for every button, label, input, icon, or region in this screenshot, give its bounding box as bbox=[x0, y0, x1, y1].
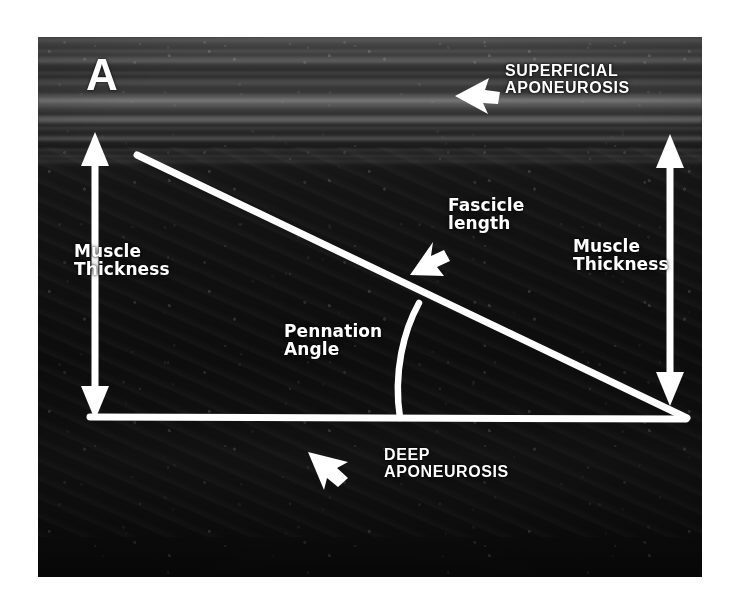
label-muscle-thickness-left: Muscle Thickness bbox=[74, 242, 170, 279]
ultrasound-image bbox=[38, 37, 702, 577]
label-muscle-thickness-right: Muscle Thickness bbox=[573, 237, 669, 274]
panel-letter-a: A bbox=[86, 53, 118, 97]
label-pennation-angle: Pennation Angle bbox=[284, 322, 382, 359]
label-fascicle-length: Fascicle length bbox=[448, 196, 524, 233]
label-superficial-aponeurosis: SUPERFICIAL APONEUROSIS bbox=[505, 62, 630, 97]
image-vignette bbox=[38, 37, 702, 577]
label-deep-aponeurosis: DEEP APONEUROSIS bbox=[384, 446, 509, 481]
ultrasound-figure-panel-a: A SUPERFICIAL APONEUROSIS Fascicle lengt… bbox=[0, 0, 737, 599]
